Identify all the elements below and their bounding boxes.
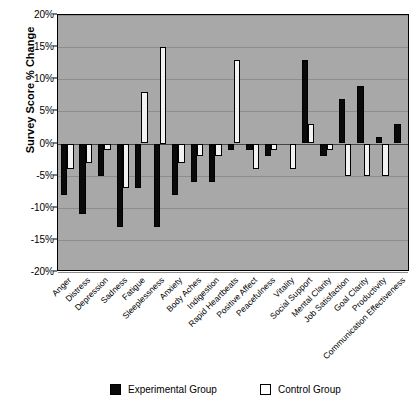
bar-control [197, 144, 203, 157]
bar-experimental [339, 99, 345, 144]
bar-control [290, 144, 296, 170]
bar-experimental [357, 86, 363, 144]
bar-experimental [394, 124, 400, 143]
bar-control [234, 60, 240, 144]
legend-entry: Control Group [260, 384, 341, 395]
y-axis-tick-label: 5% [8, 105, 54, 116]
bar-control [345, 144, 351, 176]
x-axis-category-labels: AngerDistressDepressionSadnessFatigueSle… [0, 271, 417, 371]
bar-control [178, 144, 184, 163]
bar-experimental [135, 144, 141, 189]
y-axis-tick-label: -5% [8, 169, 54, 180]
y-axis-tick-label: 20% [8, 9, 54, 20]
black-square-icon [110, 384, 121, 395]
bar-experimental [154, 144, 160, 228]
white-square-icon [260, 384, 271, 395]
y-axis-tick-label: 10% [8, 73, 54, 84]
y-axis-tick-label: 15% [8, 41, 54, 52]
bar-control [86, 144, 92, 163]
y-axis-tick-label: -15% [8, 233, 54, 244]
bar-control [67, 144, 73, 170]
chart-legend: Experimental GroupControl Group [0, 384, 417, 404]
bar-control [364, 144, 370, 176]
y-axis-tick-label: -10% [8, 201, 54, 212]
bar-control [104, 144, 110, 150]
bar-control [141, 92, 147, 143]
bar-control [215, 144, 221, 157]
bar-control [123, 144, 129, 189]
y-axis-title: Survey Score % Change [24, 0, 36, 190]
bar-control [271, 144, 277, 150]
plot-area [57, 14, 409, 271]
bar-control [382, 144, 388, 176]
bar-control [308, 124, 314, 143]
bar-control [160, 47, 166, 143]
bar-experimental [228, 144, 234, 150]
legend-label: Experimental Group [128, 384, 217, 395]
bar-chart: Survey Score % Change 20%15%10%5%0%-5%-1… [0, 0, 417, 417]
legend-label: Control Group [278, 384, 341, 395]
bar-control [327, 144, 333, 150]
bars-layer [58, 15, 408, 270]
legend-entry: Experimental Group [110, 384, 217, 395]
bar-control [253, 144, 259, 170]
y-axis-tick-label: 0% [8, 137, 54, 148]
